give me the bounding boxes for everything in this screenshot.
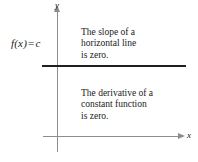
constant-function-line (42, 65, 186, 67)
annotation-slope-line-3: is zero. (81, 50, 136, 61)
annotation-slope-line-1: The slope of a (81, 27, 136, 38)
annotation-derivative: The derivative of a constant function is… (81, 88, 153, 122)
constant-function-figure: y x f(x)=c The slope of a horizontal lin… (0, 0, 198, 162)
annotation-derivative-line-1: The derivative of a (81, 88, 153, 99)
x-axis-arrow-icon (178, 133, 185, 139)
constant-value: c (35, 37, 40, 49)
x-axis-label: x (187, 131, 191, 140)
annotation-derivative-line-3: is zero. (81, 111, 153, 122)
annotation-slope-line-2: horizontal line (81, 38, 136, 49)
annotation-slope: The slope of a horizontal line is zero. (81, 27, 136, 61)
function-equation-label: f(x)=c (11, 37, 41, 49)
x-axis (43, 136, 180, 137)
y-axis (57, 10, 58, 152)
y-axis-label: y (55, 1, 59, 10)
annotation-derivative-line-2: constant function (81, 99, 153, 110)
function-name: f(x) (11, 37, 27, 49)
